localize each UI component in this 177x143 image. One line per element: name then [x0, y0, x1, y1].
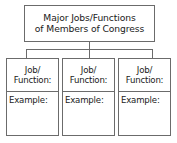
- example-label-2: Example:: [65, 95, 114, 105]
- connector-drop-1: [26, 49, 27, 58]
- title-box: Major Jobs/Functions of Members of Congr…: [24, 5, 155, 42]
- example-cell-1: Example:: [7, 92, 58, 135]
- example-cell-3: Example:: [119, 92, 170, 135]
- job-function-cell-2: Job/ Function:: [63, 59, 114, 92]
- job-function-line-2a: Job/: [81, 65, 96, 75]
- job-function-line-3b: Function:: [126, 75, 164, 85]
- title-line-1: Major Jobs/Functions: [43, 13, 135, 24]
- connector-drop-2: [89, 49, 90, 58]
- example-label-3: Example:: [121, 95, 170, 105]
- graphic-organizer-diagram: Major Jobs/Functions of Members of Congr…: [0, 0, 177, 143]
- job-function-line-3a: Job/: [137, 65, 152, 75]
- column-box-3: Job/ Function: Example:: [118, 58, 171, 136]
- title-line-2: of Members of Congress: [35, 24, 144, 35]
- example-cell-2: Example:: [63, 92, 114, 135]
- connector-stem-top: [89, 42, 90, 49]
- job-function-cell-3: Job/ Function:: [119, 59, 170, 92]
- job-function-line-1b: Function:: [14, 75, 52, 85]
- job-function-cell-1: Job/ Function:: [7, 59, 58, 92]
- column-box-1: Job/ Function: Example:: [6, 58, 59, 136]
- connector-drop-3: [152, 49, 153, 58]
- job-function-line-1a: Job/: [25, 65, 40, 75]
- example-label-1: Example:: [9, 95, 58, 105]
- job-function-line-2b: Function:: [70, 75, 108, 85]
- column-box-2: Job/ Function: Example:: [62, 58, 115, 136]
